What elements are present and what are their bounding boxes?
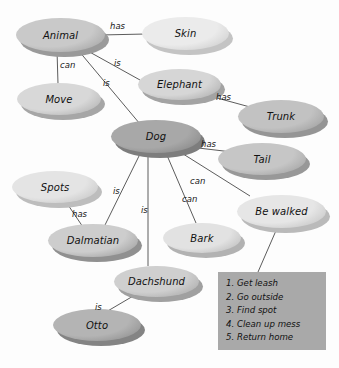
edge-elephant-animal — [86, 50, 140, 80]
node-bark[interactable]: Bark — [163, 223, 241, 253]
node-label-spots: Spots — [12, 171, 98, 203]
edge-label-animal-skin: has — [110, 21, 125, 31]
edge-label-elephant-animal: is — [114, 58, 121, 68]
edge-dalmatian-dog — [104, 154, 140, 227]
node-label-skin: Skin — [142, 17, 229, 50]
node-label-animal: Animal — [16, 18, 105, 52]
edge-label-spots-dalmatian: has — [72, 209, 87, 219]
node-label-dalmatian: Dalmatian — [48, 224, 138, 257]
node-label-elephant: Elephant — [138, 69, 221, 100]
node-label-bark: Bark — [163, 223, 241, 253]
edge-label-dalmatian-dog: is — [113, 186, 120, 196]
procedure-step: 1. Get leash — [226, 277, 322, 291]
node-dalmatian[interactable]: Dalmatian — [48, 224, 138, 257]
procedure-box: 1. Get leash2. Go outside3. Find spot4. … — [218, 272, 326, 350]
edge-label-animal-move: can — [60, 60, 75, 70]
edge-dog-bark — [166, 153, 196, 223]
edge-label-dachshund-dog: is — [141, 205, 148, 215]
semantic-network-diagram: AnimalSkinMoveElephantTrunkDogTailSpotsD… — [0, 0, 339, 368]
procedure-step-list: 1. Get leash2. Go outside3. Find spot4. … — [226, 277, 322, 345]
node-dog[interactable]: Dog — [111, 120, 201, 153]
node-label-dachshund: Dachshund — [114, 266, 199, 297]
node-skin[interactable]: Skin — [142, 17, 229, 50]
procedure-step: 4. Clean up mess — [226, 318, 322, 332]
node-elephant[interactable]: Elephant — [138, 69, 221, 100]
node-dachshund[interactable]: Dachshund — [114, 266, 199, 297]
node-label-dog: Dog — [111, 120, 201, 153]
node-label-tail: Tail — [218, 143, 306, 175]
node-label-bewalked: Be walked — [237, 195, 326, 228]
node-bewalked[interactable]: Be walked — [237, 195, 326, 228]
edge-label-dog-animal: is — [103, 78, 110, 88]
edge-label-otto-dachshund: is — [95, 302, 102, 312]
node-trunk[interactable]: Trunk — [238, 100, 324, 133]
procedure-step: 5. Return home — [226, 331, 322, 345]
edge-label-dog-tail: has — [201, 139, 216, 149]
node-label-otto: Otto — [53, 309, 141, 341]
node-animal[interactable]: Animal — [16, 18, 105, 52]
edge-bewalked-procedure — [258, 226, 278, 272]
node-otto[interactable]: Otto — [53, 309, 141, 341]
node-spots[interactable]: Spots — [12, 171, 98, 203]
procedure-step: 2. Go outside — [226, 291, 322, 305]
edge-label-dog-bewalked: can — [190, 176, 205, 186]
node-label-move: Move — [17, 83, 101, 115]
procedure-step: 3. Find spot — [226, 304, 322, 318]
node-label-trunk: Trunk — [238, 100, 324, 133]
edge-label-dog-bark: can — [182, 194, 197, 204]
edge-label-elephant-trunk: has — [216, 92, 231, 102]
node-move[interactable]: Move — [17, 83, 101, 115]
node-tail[interactable]: Tail — [218, 143, 306, 175]
